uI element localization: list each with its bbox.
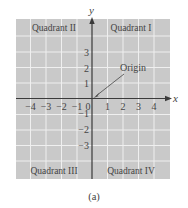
svg-text:−2: −2 — [56, 101, 67, 112]
svg-text:1: 1 — [84, 78, 89, 89]
svg-text:−4: −4 — [25, 101, 36, 112]
quadrant-1-label: Quadrant I — [111, 23, 152, 33]
quadrant-3-label: Quadrant III — [30, 166, 77, 176]
svg-text:−2: −2 — [78, 124, 89, 135]
svg-text:−1: −1 — [78, 108, 89, 119]
y-axis-label: y — [88, 4, 94, 16]
svg-text:4: 4 — [152, 101, 157, 112]
origin-label: Origin — [120, 62, 146, 73]
svg-text:2: 2 — [84, 63, 89, 74]
coordinate-plane-figure: x y Quadrant II Quadrant I Quadrant III … — [0, 0, 188, 208]
svg-text:3: 3 — [136, 101, 141, 112]
svg-text:1: 1 — [105, 101, 110, 112]
svg-text:2: 2 — [121, 101, 126, 112]
x-axis-label: x — [172, 92, 178, 104]
svg-text:−3: −3 — [78, 140, 89, 151]
svg-text:−3: −3 — [41, 101, 52, 112]
svg-text:3: 3 — [84, 47, 89, 58]
figure-caption: (a) — [88, 191, 100, 203]
quadrant-2-label: Quadrant II — [32, 23, 76, 33]
quadrant-4-label: Quadrant IV — [107, 166, 155, 176]
